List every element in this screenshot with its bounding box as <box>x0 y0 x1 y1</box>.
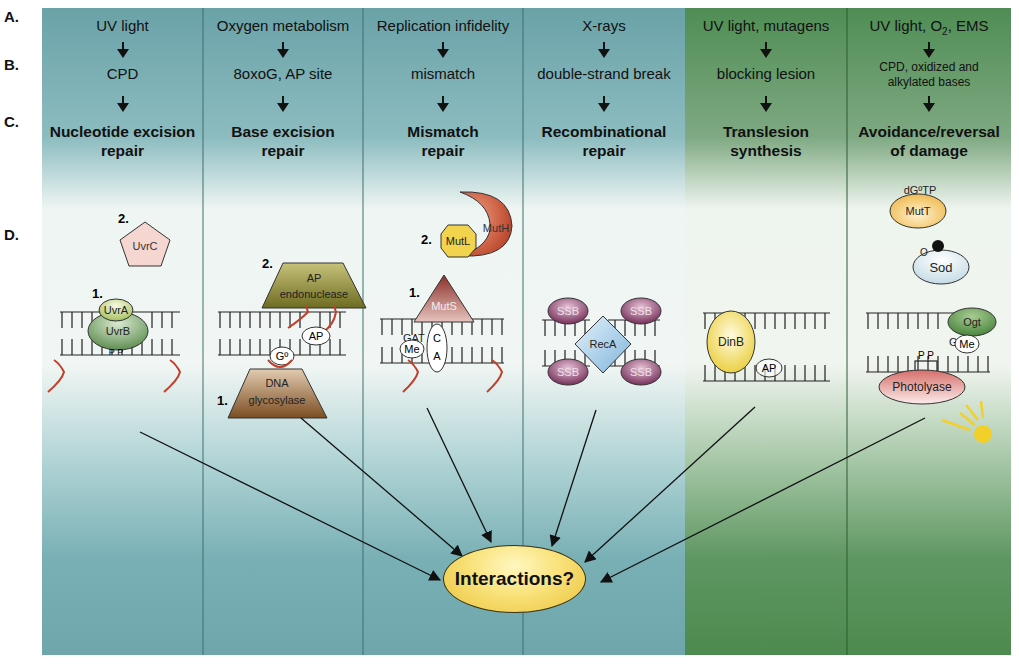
pathway-line2: repair <box>363 141 523 160</box>
lesion-type: CPD, oxidized and alkylated bases <box>847 60 1011 90</box>
lesion-type: blocking lesion <box>685 65 847 82</box>
row-label-a: A. <box>4 8 40 25</box>
column-ber: Oxygen metabolism 8oxoG, AP site Base ex… <box>203 8 363 655</box>
lesion-type: 8oxoG, AP site <box>203 65 363 82</box>
pathway-line1: Avoidance/reversal <box>847 122 1011 141</box>
pathway-line1: Nucleotide excision <box>42 122 203 141</box>
repair-pathway: Avoidance/reversal of damage <box>847 122 1011 160</box>
damage-cause: UV light, O2, EMS <box>847 17 1011 37</box>
lesion-type: double-strand break <box>523 65 685 82</box>
damage-cause: UV light <box>42 17 203 34</box>
lesion-type: mismatch <box>363 65 523 82</box>
repair-pathway: Translesion synthesis <box>685 122 847 160</box>
column-ner: UV light CPD Nucleotide excision repair <box>42 8 203 655</box>
repair-pathway: Nucleotide excision repair <box>42 122 203 160</box>
row-label-d: D. <box>4 226 40 243</box>
pathway-line2: of damage <box>847 141 1011 160</box>
damage-cause: X-rays <box>523 17 685 34</box>
pathway-line2: synthesis <box>685 141 847 160</box>
pathway-line2: repair <box>203 141 363 160</box>
pathway-line1: Base excision <box>203 122 363 141</box>
row-label-c: C. <box>4 113 40 130</box>
damage-cause: UV light, mutagens <box>685 17 847 34</box>
damage-cause: Oxygen metabolism <box>203 17 363 34</box>
repair-pathway: Base excision repair <box>203 122 363 160</box>
row-label-b: B. <box>4 56 40 73</box>
damage-cause: Replication infidelity <box>363 17 523 34</box>
repair-pathway: Mismatch repair <box>363 122 523 160</box>
pathway-line1: Mismatch <box>363 122 523 141</box>
repair-pathway: Recombinational repair <box>523 122 685 160</box>
pathway-line1: Recombinational <box>523 122 685 141</box>
lesion-type: CPD <box>42 65 203 82</box>
column-avoidance: UV light, O2, EMS CPD, oxidized and alky… <box>847 8 1011 655</box>
interactions-hub: Interactions? <box>443 545 586 613</box>
pathway-line2: repair <box>42 141 203 160</box>
column-tls: UV light, mutagens blocking lesion Trans… <box>685 8 847 655</box>
pathway-line1: Translesion <box>685 122 847 141</box>
pathway-line2: repair <box>523 141 685 160</box>
